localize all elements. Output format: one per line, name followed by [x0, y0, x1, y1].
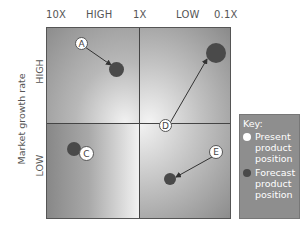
- x-tick-high: HIGH: [86, 9, 113, 20]
- forecast-swatch-icon: [243, 169, 251, 177]
- y-axis-title: Market growth rate: [16, 75, 27, 165]
- quadrant-top-left: [47, 28, 139, 123]
- forecast-dot-e: [164, 173, 176, 185]
- quadrant-bottom-left: [47, 124, 139, 218]
- key-item-present: Present product position: [243, 131, 296, 164]
- present-marker-a: A: [75, 37, 88, 50]
- x-tick-1x: 1X: [133, 9, 147, 20]
- forecast-dot-d: [206, 43, 226, 63]
- y-label-low: LOW: [34, 151, 45, 181]
- key-title: Key:: [243, 118, 296, 129]
- key-item-forecast: Forecast product position: [243, 167, 296, 200]
- x-tick-low: LOW: [176, 9, 200, 20]
- key-present-label: Present product position: [255, 131, 296, 164]
- present-marker-d: D: [159, 119, 172, 132]
- present-marker-e: E: [209, 145, 223, 159]
- x-tick-10x: 10X: [46, 9, 66, 20]
- key-forecast-label: Forecast product position: [255, 167, 296, 200]
- legend-key: Key: Present product position Forecast p…: [239, 114, 300, 219]
- quadrant-bottom-right: [140, 124, 230, 218]
- present-marker-c: C: [79, 146, 94, 161]
- horizontal-divider: [47, 123, 230, 124]
- matrix-frame: [46, 27, 231, 219]
- forecast-dot-a: [109, 62, 124, 77]
- present-swatch-icon: [243, 133, 251, 141]
- y-label-high: HIGH: [34, 57, 45, 87]
- x-tick-0-1x: 0.1X: [214, 9, 238, 20]
